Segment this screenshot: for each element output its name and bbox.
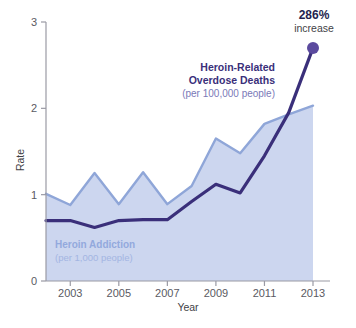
addiction-annotation-line2: (per 1,000 people)	[55, 252, 133, 263]
overdose-annotation-line2: Overdose Deaths	[189, 74, 276, 86]
overdose-annotation-line1: Heroin-Related	[200, 61, 275, 73]
overdose-annotation-line3: (per 100,000 people)	[182, 88, 275, 99]
x-axis-title: Year	[177, 301, 199, 313]
y-axis-ticks: 0123	[31, 16, 46, 287]
y-tick-label: 0	[31, 275, 37, 287]
x-tick-label: 2009	[204, 287, 228, 299]
increase-word-label: increase	[294, 22, 334, 34]
y-axis-title: Rate	[14, 149, 26, 171]
increase-percent-value: 286%	[299, 8, 330, 22]
y-tick-label: 1	[31, 189, 37, 201]
overdose-deaths-annotation: Heroin-Related Overdose Deaths (per 100,…	[182, 61, 275, 99]
x-tick-label: 2013	[301, 287, 325, 299]
heroin-rate-chart: 0123 200320052007200920112013 Rate Year …	[0, 0, 356, 328]
y-tick-label: 3	[31, 16, 37, 28]
y-tick-label: 2	[31, 102, 37, 114]
endpoint-marker-dot	[307, 42, 319, 54]
increase-callout: 286% increase	[294, 8, 334, 34]
chart-container: 0123 200320052007200920112013 Rate Year …	[0, 0, 356, 328]
x-tick-label: 2007	[155, 287, 179, 299]
x-tick-label: 2003	[58, 287, 82, 299]
x-axis-ticks: 200320052007200920112013	[58, 281, 325, 299]
x-tick-label: 2005	[107, 287, 131, 299]
x-tick-label: 2011	[253, 287, 277, 299]
addiction-annotation-line1: Heroin Addiction	[55, 239, 135, 250]
